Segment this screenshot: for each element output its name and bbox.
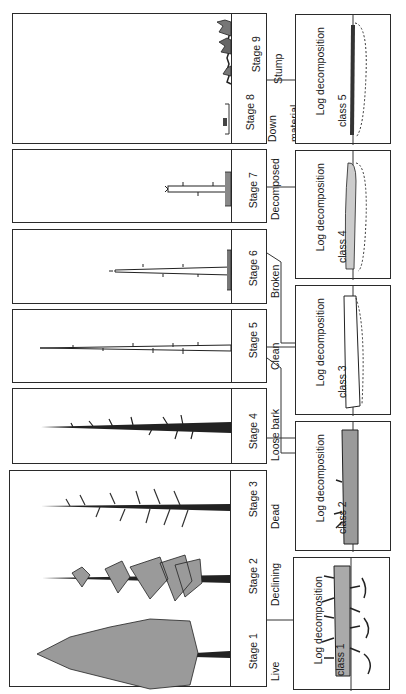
log-class-1-panel: Log decomposition class 1 — [293, 557, 390, 690]
log-class-3-label: Log decomposition class 3 — [304, 298, 359, 398]
log-class-5-panel: Log decomposition class 5 — [295, 14, 391, 144]
log-class-1-label: Log decomposition class 1 — [302, 576, 357, 676]
log-class-3-panel: Log decomposition class 3 — [295, 285, 391, 415]
log-class-2-label: Log decomposition class 2 — [304, 434, 359, 534]
log-class-4-label: Log decomposition class 4 — [304, 163, 359, 263]
log-class-4-panel: Log decomposition class 4 — [295, 150, 391, 279]
log-class-5-label: Log decomposition class 5 — [304, 27, 359, 127]
log-class-2-panel: Log decomposition class 2 — [295, 421, 391, 551]
